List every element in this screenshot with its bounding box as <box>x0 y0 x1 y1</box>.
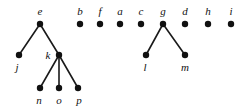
node-label-m: m <box>181 61 189 73</box>
node-label-l: l <box>143 61 146 73</box>
node-i <box>228 21 234 27</box>
node-g <box>160 21 166 27</box>
node-f <box>97 21 103 27</box>
node-o <box>56 85 62 91</box>
node-label-h: h <box>205 5 211 17</box>
node-n <box>37 85 43 91</box>
node-label-c: c <box>139 5 144 17</box>
node-label-g: g <box>160 5 166 17</box>
node-j <box>16 52 22 58</box>
node-b <box>77 21 83 27</box>
node-a <box>117 21 123 27</box>
node-p <box>75 85 81 91</box>
node-label-d: d <box>182 5 188 17</box>
forest-diagram: ebfacgdhijklmnop <box>0 0 243 112</box>
node-m <box>182 52 188 58</box>
node-e <box>37 21 43 27</box>
node-label-n: n <box>36 94 42 106</box>
node-h <box>205 21 211 27</box>
node-k <box>56 52 62 58</box>
node-l <box>143 52 149 58</box>
node-label-o: o <box>56 94 62 106</box>
node-label-p: p <box>75 94 82 106</box>
node-label-b: b <box>77 5 83 17</box>
node-label-i: i <box>229 5 232 17</box>
node-label-a: a <box>117 5 123 17</box>
node-d <box>182 21 188 27</box>
node-c <box>138 21 144 27</box>
node-label-e: e <box>38 5 43 17</box>
